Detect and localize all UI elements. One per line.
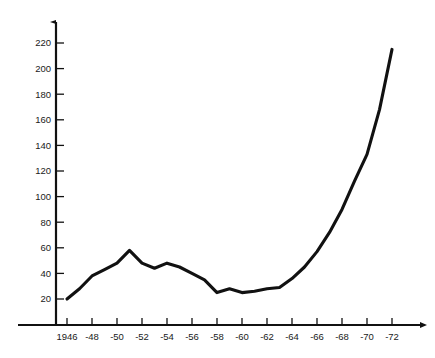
x-axis: 1946-48-50-52-54-56-58-60-62-64-66-68-70… xyxy=(18,318,420,342)
x-axis-tick-label: -62 xyxy=(260,331,274,342)
plot-area xyxy=(67,49,392,299)
x-axis-tick-label: -72 xyxy=(385,331,399,342)
y-axis-tick-label: 60 xyxy=(40,242,51,253)
y-axis-ticks xyxy=(57,43,64,299)
x-axis-tick-label: -60 xyxy=(235,331,249,342)
x-axis-tick-label: -64 xyxy=(285,331,299,342)
y-axis-tick-label: 20 xyxy=(40,293,51,304)
line-chart: 20406080100120140160180200220 1946-48-50… xyxy=(0,0,435,358)
y-axis-tick-labels: 20406080100120140160180200220 xyxy=(35,37,51,304)
x-axis-tick-labels: 1946-48-50-52-54-56-58-60-62-64-66-68-70… xyxy=(56,331,398,342)
x-axis-ticks xyxy=(67,318,392,324)
x-axis-tick-label: -56 xyxy=(185,331,199,342)
y-axis-tick-label: 120 xyxy=(35,165,51,176)
y-axis: 20406080100120140160180200220 xyxy=(35,22,64,325)
x-axis-tick-label: -58 xyxy=(210,331,224,342)
x-axis-tick-label: -70 xyxy=(360,331,374,342)
chart-canvas: 20406080100120140160180200220 1946-48-50… xyxy=(0,0,435,358)
y-axis-tick-label: 100 xyxy=(35,191,51,202)
y-axis-tick-label: 200 xyxy=(35,63,51,74)
y-axis-tick-label: 80 xyxy=(40,217,51,228)
x-axis-tick-label: -48 xyxy=(85,331,99,342)
y-axis-tick-label: 40 xyxy=(40,268,51,279)
y-axis-tick-label: 160 xyxy=(35,114,51,125)
y-axis-tick-label: 180 xyxy=(35,89,51,100)
x-axis-tick-label: -52 xyxy=(135,331,149,342)
x-axis-tick-label: -68 xyxy=(335,331,349,342)
data-series-line xyxy=(67,49,392,299)
y-axis-tick-label: 220 xyxy=(35,37,51,48)
x-axis-tick-label: -54 xyxy=(160,331,174,342)
x-axis-tick-label: -66 xyxy=(310,331,324,342)
x-axis-tick-label: 1946 xyxy=(56,331,77,342)
y-axis-tick-label: 140 xyxy=(35,140,51,151)
x-axis-tick-label: -50 xyxy=(110,331,124,342)
